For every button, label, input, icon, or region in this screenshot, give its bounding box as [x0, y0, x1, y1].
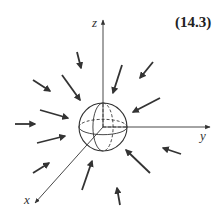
- field-arrows: [15, 52, 181, 205]
- field-arrow-11: [163, 148, 181, 154]
- z-axis-label: z: [92, 15, 97, 31]
- field-arrow-14: [113, 65, 122, 93]
- field-arrow-8: [82, 161, 92, 190]
- equator-front: [79, 127, 127, 135]
- vector-field-diagram: [0, 0, 223, 213]
- field-arrow-7: [33, 163, 49, 173]
- field-arrow-13: [140, 62, 153, 78]
- coordinate-axes: [35, 20, 210, 203]
- meridian-front: [93, 103, 103, 151]
- field-arrow-3: [62, 75, 80, 100]
- equation-number: (14.3): [175, 14, 211, 31]
- field-arrow-9: [117, 188, 120, 205]
- vector-field-figure: (14.3) z y x: [0, 0, 223, 213]
- field-arrow-6: [37, 136, 65, 143]
- field-arrow-1: [77, 52, 81, 68]
- y-axis-label: y: [200, 128, 206, 144]
- x-axis-label: x: [24, 192, 30, 208]
- field-arrow-12: [133, 98, 160, 112]
- field-arrow-2: [33, 80, 50, 91]
- sphere: [79, 103, 127, 151]
- field-arrow-10: [126, 150, 150, 173]
- field-arrow-4: [40, 110, 68, 118]
